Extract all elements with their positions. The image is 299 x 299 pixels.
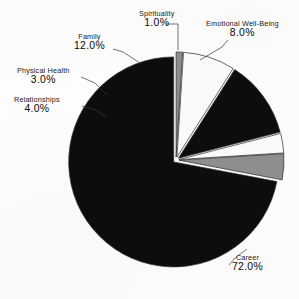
pie-slice-label-percent: 8.0%: [206, 28, 279, 39]
pie-slice-label: Physical Health3.0%: [17, 67, 70, 86]
pie-slice-label: Relationships4.0%: [14, 96, 60, 115]
pie-slice-label-percent: 3.0%: [17, 75, 70, 86]
pie-slice-label: Spirituality1.0%: [139, 10, 174, 29]
pie-slice-label: Career72.0%: [232, 254, 263, 273]
pie-slice-label: Emotional Well-Being8.0%: [206, 20, 279, 39]
pie-slice-group: [69, 52, 284, 267]
pie-slice-label-percent: 1.0%: [139, 18, 174, 29]
pie-slice-label: Family12.0%: [74, 33, 105, 52]
pie-slice-label-percent: 72.0%: [232, 262, 263, 273]
leader-line: [113, 49, 140, 63]
pie-slice-label-percent: 12.0%: [74, 41, 105, 52]
pie-slice-label-percent: 4.0%: [14, 104, 60, 115]
pie-chart: Spirituality1.0%Emotional Well-Being8.0%…: [0, 0, 299, 299]
